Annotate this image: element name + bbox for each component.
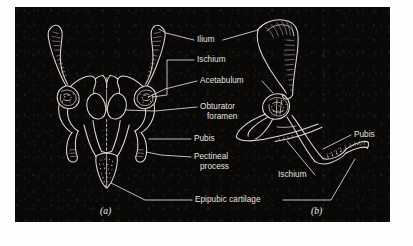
obturator-foramen-right bbox=[107, 93, 126, 119]
leader-ilium-right bbox=[223, 30, 259, 40]
label-ischium-right: Ischium bbox=[278, 170, 307, 180]
left-ilium bbox=[48, 25, 67, 86]
right-panel-ischium bbox=[236, 114, 322, 141]
label-epipubic-cartilage: Epipubic cartilage bbox=[195, 195, 261, 205]
obturator-foramen-left bbox=[87, 93, 106, 119]
anatomical-plate: .ln { fill:none; stroke:#ddd9d1; stroke-… bbox=[15, 7, 390, 222]
leader-obturator bbox=[125, 107, 197, 111]
leader-ischium-left bbox=[152, 60, 194, 97]
leader-epipubic-left bbox=[111, 183, 192, 200]
right-panel-acetabulum bbox=[263, 94, 290, 119]
panel-a-ventral-pelvis bbox=[48, 25, 165, 188]
leader-pubis-b bbox=[323, 135, 351, 149]
label-ischium-left: Ischium bbox=[197, 55, 226, 65]
label-acetabulum: Acetabulum bbox=[200, 76, 244, 86]
label-obturator-line2: foramen bbox=[207, 112, 237, 122]
right-panel-pubis bbox=[287, 115, 369, 163]
figure-root: .ln { fill:none; stroke:#ddd9d1; stroke-… bbox=[0, 0, 413, 246]
caption-panel-b: (b) bbox=[311, 206, 322, 216]
label-pectineal-line1: Pectineal bbox=[194, 152, 228, 162]
caption-panel-a: (a) bbox=[100, 206, 111, 216]
right-ilium bbox=[146, 25, 165, 86]
label-pubis-right: Pubis bbox=[354, 130, 375, 140]
label-obturator-line1: Obturator bbox=[200, 102, 235, 112]
label-pectineal-line2: process bbox=[200, 162, 229, 172]
right-panel-ilium bbox=[257, 20, 298, 99]
obturator-foramina bbox=[87, 89, 127, 119]
epipubic-cartilage bbox=[96, 152, 118, 188]
left-acetabulum bbox=[57, 86, 79, 109]
label-pubis-left: Pubis bbox=[194, 134, 215, 144]
leader-acetabulum-b bbox=[262, 81, 273, 93]
leader-pectineal bbox=[146, 152, 191, 157]
panel-b-lateral-pelvis bbox=[236, 20, 368, 164]
label-ilium: Ilium bbox=[197, 35, 215, 45]
